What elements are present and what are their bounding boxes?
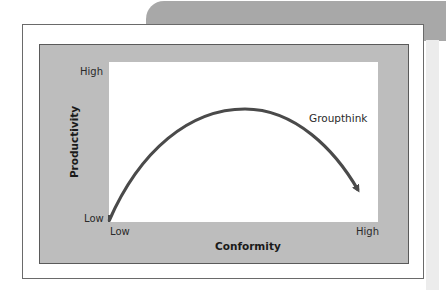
curve-path — [109, 109, 358, 221]
